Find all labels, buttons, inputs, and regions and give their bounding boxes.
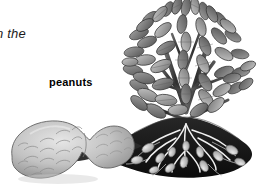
caption-text-fragment: n the bbox=[0, 26, 26, 41]
peanuts-label: peanuts bbox=[49, 76, 93, 88]
peanut-illustration bbox=[0, 0, 258, 191]
peanut-plant-figure: n the peanuts bbox=[0, 0, 258, 191]
peanut-shell bbox=[12, 121, 142, 184]
